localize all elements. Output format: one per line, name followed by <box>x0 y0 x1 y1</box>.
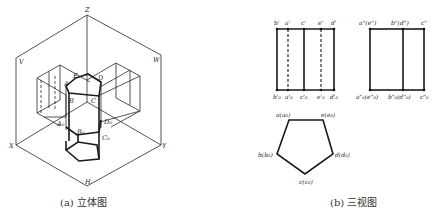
label-e-e0: e(e₀) <box>321 111 336 118</box>
label-b-prime: b' <box>274 19 280 26</box>
side-view-points <box>369 28 426 92</box>
point-e-prime <box>320 28 323 31</box>
axis-label-x: X <box>8 142 14 150</box>
label-b-d-dprime: b"(d") <box>391 19 410 26</box>
caption-figure-a: (a) 立体图 <box>60 196 107 208</box>
point-label-a: A <box>63 80 69 88</box>
front-view-points <box>276 28 336 92</box>
label-d-d0: d(d₀) <box>335 151 350 158</box>
label-a-a0: a(a₀) <box>276 111 291 118</box>
prism-top-face <box>66 74 101 96</box>
point-label-b0: B₀ <box>76 128 85 136</box>
label-c-dprime: c" <box>421 19 427 26</box>
label-b-b0: b(b₀) <box>258 151 273 158</box>
label-a-e-dprime: a"(e") <box>359 19 377 26</box>
point-a-prime <box>287 28 290 31</box>
plane-label-h: H <box>84 178 91 186</box>
point-b-prime <box>276 28 279 31</box>
axis-label-y: Y <box>162 142 167 150</box>
point-c0-prime <box>303 89 306 92</box>
point-c0-dprime <box>423 89 426 92</box>
label-c0-prime: c'₀ <box>300 93 308 100</box>
point-d-prime <box>333 28 336 31</box>
w-proj-bottom-back <box>116 98 140 111</box>
top-view: a(a₀) e(e₀) d(d₀) c(c₀) b(b₀) <box>258 111 350 185</box>
top-view-pentagon <box>277 120 333 174</box>
plane-label-w: W <box>153 56 161 64</box>
axis-label-z: Z <box>84 6 90 14</box>
label-a0-e0-dprime: a"₀(e"₀) <box>356 93 379 100</box>
side-view-outline <box>370 29 424 90</box>
pentagonal-prism <box>66 74 101 161</box>
x-axis <box>16 102 87 145</box>
label-d-prime: d' <box>331 19 337 26</box>
label-d0-prime: d'₀ <box>330 93 338 100</box>
h-plane-left-edge <box>16 145 87 186</box>
label-b0-prime: b'₀ <box>273 93 281 100</box>
point-label-c: C <box>91 97 96 105</box>
label-c-c0: c(c₀) <box>299 178 313 185</box>
side-view: a"(e") b"(d") c" a"₀(e"₀) b"₀(d"₀) c"₀ <box>356 19 429 100</box>
prism-bottom-face <box>66 142 99 161</box>
point-c-prime <box>303 28 306 31</box>
w-plane-top-edge <box>87 15 161 55</box>
y-axis <box>87 102 161 145</box>
point-b-d-dprime <box>402 28 405 31</box>
v-plane-projection <box>37 65 90 126</box>
point-label-b: B <box>68 97 74 105</box>
diagram-canvas: Z V W X Y H E A D B C A₀ B₀ C₀ D₀ (a) 立体… <box>0 0 438 219</box>
front-view: b' a' c' e' d' b'₀ a'₀ c'₀ e'₀ d'₀ <box>273 19 338 100</box>
label-a-prime: a' <box>285 19 291 26</box>
point-c-dprime <box>423 28 426 31</box>
point-a0-prime <box>287 89 290 92</box>
point-d0-prime <box>333 89 336 92</box>
label-c0-dprime: c"₀ <box>420 93 429 100</box>
point-label-e: E <box>72 72 78 80</box>
caption-figure-b: (b) 三视图 <box>330 196 377 208</box>
label-b0-d0-dprime: b"₀(d"₀) <box>388 93 411 100</box>
point-label-c0: C₀ <box>102 134 110 142</box>
v-plane-top-edge <box>16 15 87 58</box>
plane-label-v: V <box>19 58 25 66</box>
v-proj-bottom-back <box>37 100 60 113</box>
point-label-a0: A₀ <box>56 120 65 128</box>
label-a0-prime: a'₀ <box>285 93 293 100</box>
point-e0-prime <box>320 89 323 92</box>
label-c-prime: c' <box>301 19 306 26</box>
point-a-e-dprime <box>369 28 372 31</box>
figure-b-three-views: b' a' c' e' d' b'₀ a'₀ c'₀ e'₀ d'₀ a"(e"… <box>258 19 429 208</box>
label-e-prime: e' <box>318 19 324 26</box>
point-b0-prime <box>276 89 279 92</box>
label-e0-prime: e'₀ <box>317 93 325 100</box>
figure-a-3d-view: Z V W X Y H E A D B C A₀ B₀ C₀ D₀ (a) 立体… <box>8 6 167 208</box>
point-label-d0: D₀ <box>103 118 112 126</box>
point-label-d: D <box>97 74 104 82</box>
point-a0-e0-dprime <box>369 89 372 92</box>
w-proj-top-front <box>100 76 140 95</box>
point-b0-d0-dprime <box>402 89 405 92</box>
w-proj-top-mid <box>100 70 130 87</box>
